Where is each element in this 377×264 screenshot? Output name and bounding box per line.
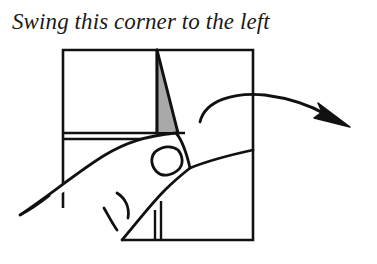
curved-arrow — [200, 94, 350, 127]
hand-left-edge — [20, 195, 50, 215]
arrowhead-icon — [314, 103, 350, 127]
fold-diagram — [0, 0, 377, 264]
hand — [20, 133, 253, 240]
